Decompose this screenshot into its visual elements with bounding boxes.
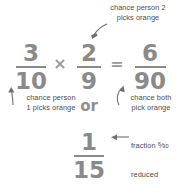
inline-fraction-six-ninetieths-denominator: 90 (162, 143, 168, 149)
annotation-bottom-right-line2: reduced (131, 170, 182, 180)
fraction-one-fifteenth: 1 15 (70, 130, 108, 182)
multiplication-operator: × (51, 56, 69, 72)
fraction-six-ninetieths-numerator: 6 (131, 41, 169, 65)
inline-fraction-six-ninetieths: 6⁄90 (158, 141, 169, 150)
inline-fraction-six-ninetieths-numerator: 6 (158, 141, 161, 147)
equals-operator: = (108, 56, 126, 72)
or-label: or (72, 99, 106, 114)
fraction-three-tenths-numerator: 3 (12, 41, 50, 65)
annotation-bottom-right-line1: fraction 6⁄90 (131, 140, 182, 152)
fraction-one-fifteenth-numerator: 1 (70, 130, 108, 154)
fraction-one-fifteenth-denominator: 15 (70, 158, 108, 182)
fraction-two-ninths-numerator: 2 (70, 41, 108, 65)
annotation-bottom-right-line1-prefix: fraction (131, 141, 158, 150)
fraction-two-ninths: 2 9 (70, 41, 108, 93)
fraction-six-ninetieths: 6 90 (131, 41, 169, 93)
annotation-right: chance both pick orange (120, 93, 182, 112)
annotation-bottom-right: fraction 6⁄90 reduced down to 1⁄15 by di… (131, 130, 182, 192)
probability-equation-diagram: chance person 2 picks orange 3 10 × 2 9 … (0, 0, 182, 192)
annotation-top: chance person 2 picks orange (96, 3, 180, 22)
arrow-bottom-to-fraction4-icon (110, 133, 130, 143)
fraction-six-ninetieths-denominator: 90 (131, 69, 169, 93)
fraction-two-ninths-denominator: 9 (70, 69, 108, 93)
